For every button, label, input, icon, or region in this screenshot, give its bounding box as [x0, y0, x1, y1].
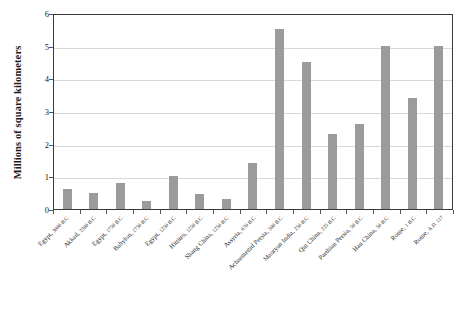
- bar-slot: [399, 15, 426, 209]
- y-axis-title-text: Millions of square kilometers: [13, 46, 24, 180]
- x-axis-tick-mark: [453, 210, 454, 214]
- bar: [328, 134, 337, 209]
- bar: [275, 29, 284, 209]
- bar: [381, 46, 390, 209]
- bar: [63, 189, 72, 209]
- bar: [302, 62, 311, 209]
- bars-container: [54, 15, 452, 209]
- bar: [355, 124, 364, 209]
- plot-area: [53, 14, 453, 210]
- bar-chart: Millions of square kilometers 0123456 Eg…: [0, 0, 466, 321]
- bar: [222, 199, 231, 209]
- bar-slot: [240, 15, 267, 209]
- bar-slot: [346, 15, 373, 209]
- y-axis-title: Millions of square kilometers: [0, 0, 36, 225]
- bar: [142, 201, 151, 209]
- bar: [89, 193, 98, 209]
- bar-slot: [213, 15, 240, 209]
- bar-slot: [425, 15, 452, 209]
- bar: [434, 46, 443, 209]
- bar: [248, 163, 257, 209]
- bar: [116, 183, 125, 209]
- bar-slot: [160, 15, 187, 209]
- bar-slot: [107, 15, 134, 209]
- bar: [169, 176, 178, 209]
- bar: [195, 194, 204, 209]
- bar-slot: [134, 15, 161, 209]
- bar-slot: [293, 15, 320, 209]
- bar-slot: [187, 15, 214, 209]
- bar-slot: [319, 15, 346, 209]
- bar-slot: [372, 15, 399, 209]
- x-axis-tick-labels: Egypt, 3000 B.C.Akkad, 2300 B.C.Egypt, 1…: [53, 214, 453, 320]
- bar: [408, 98, 417, 209]
- bar-slot: [81, 15, 108, 209]
- bar-slot: [266, 15, 293, 209]
- bar-slot: [54, 15, 81, 209]
